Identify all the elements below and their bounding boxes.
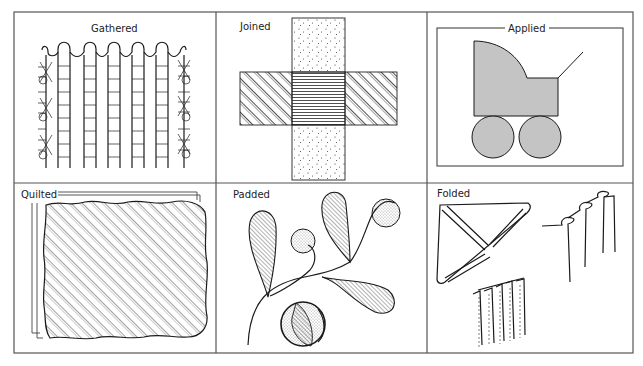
joined-horizontal-strip-left (240, 72, 292, 125)
panel-label-folded: Folded (437, 188, 470, 199)
applied-pram-handle (558, 52, 583, 78)
panel-label-applied: Applied (508, 23, 546, 34)
panel-label-padded: Padded (233, 189, 270, 200)
applied-pram-body (474, 41, 558, 116)
gathered-smocking-right (178, 55, 190, 168)
panel-gathered: Gathered (38, 23, 190, 168)
diagram-canvas: Gathered (0, 0, 643, 366)
folded-stepped-pleats (542, 191, 615, 282)
padded-berry-left (291, 229, 315, 253)
padded-leaf-left (249, 211, 276, 297)
joined-horizontal-strip-right (345, 72, 397, 125)
gathered-top-edge (42, 42, 186, 56)
padded-ball (281, 302, 325, 346)
padded-berry-right (372, 199, 400, 227)
joined-vertical-strip-top (292, 18, 345, 72)
padded-leaf-top (322, 192, 350, 262)
panel-quilted: Quilted (21, 189, 215, 345)
panel-label-gathered: Gathered (91, 23, 138, 34)
panel-applied: Applied (437, 22, 623, 166)
joined-overlap (292, 72, 345, 125)
gathered-ladder-columns (58, 52, 168, 168)
folded-triangle (437, 203, 530, 283)
panel-joined: Joined (239, 18, 397, 180)
padded-leaf-right (322, 277, 394, 313)
quilted-diagonal-stitching (40, 195, 215, 345)
joined-vertical-strip-bottom (292, 125, 345, 180)
panel-padded: Padded (233, 189, 400, 346)
gathered-smocking-left (38, 55, 52, 168)
panel-label-quilted: Quilted (21, 189, 57, 200)
panel-label-joined: Joined (239, 21, 271, 32)
padded-branch-stem (270, 245, 315, 296)
panel-folded: Folded (437, 188, 615, 348)
applied-pram-wheel-left (472, 116, 514, 158)
applied-pram-wheel-right (519, 116, 561, 158)
folded-stitched-pleats (473, 278, 525, 348)
